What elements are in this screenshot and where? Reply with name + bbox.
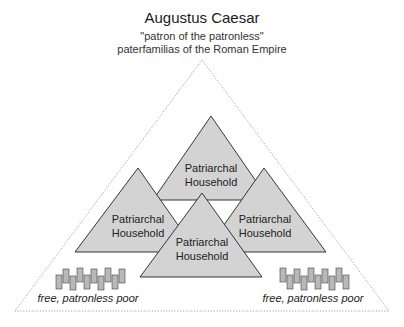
poor-group-left xyxy=(56,268,125,290)
poor-label-left: free, patronless poor xyxy=(38,292,140,304)
household-top-line1: Patriarchal xyxy=(185,162,238,174)
poor-group-right xyxy=(280,268,349,290)
hierarchy-diagram: Patriarchal Household Patriarchal Househ… xyxy=(0,0,404,327)
household-right-line1: Patriarchal xyxy=(239,213,292,225)
household-center-line1: Patriarchal xyxy=(176,236,229,248)
household-left-line2: Household xyxy=(112,227,165,239)
household-left-line1: Patriarchal xyxy=(112,213,165,225)
household-center-line2: Household xyxy=(176,250,229,262)
poor-label-right: free, patronless poor xyxy=(263,292,365,304)
household-right-line2: Household xyxy=(239,227,292,239)
household-top-line2: Household xyxy=(185,176,238,188)
